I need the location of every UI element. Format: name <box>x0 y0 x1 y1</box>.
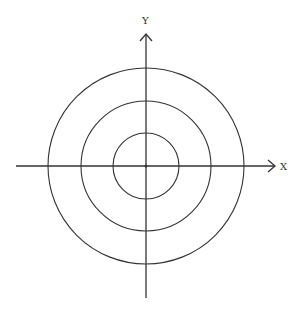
origin-point <box>145 165 148 168</box>
y-axis-label: Y <box>141 15 149 26</box>
concentric-circles-diagram: X Y <box>0 0 308 322</box>
x-axis-label: X <box>280 161 288 172</box>
